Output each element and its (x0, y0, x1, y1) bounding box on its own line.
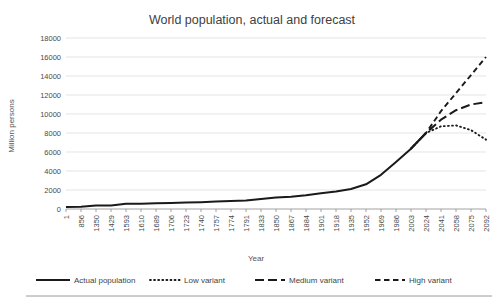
chart-card: World population, actual and forecast 02… (0, 0, 504, 301)
x-tick-1850: 1850 (272, 215, 281, 232)
x-tick-1918: 1918 (332, 215, 341, 232)
legend-label-actual-population[interactable]: Actual population (74, 276, 135, 285)
y-tick-18000: 18000 (40, 34, 61, 43)
y-tick-0: 0 (57, 205, 61, 214)
x-tick-1723: 1723 (182, 215, 191, 232)
y-tick-14000: 14000 (40, 72, 61, 81)
x-tick-1740: 1740 (197, 215, 206, 232)
x-tick-1593: 1593 (122, 215, 131, 232)
x-tick-1757: 1757 (212, 215, 221, 232)
x-tick-1: 1 (62, 215, 71, 219)
x-tick-1884: 1884 (302, 215, 311, 232)
y-tick-2000: 2000 (44, 186, 61, 195)
population-line-chart: World population, actual and forecast 02… (0, 0, 504, 301)
x-tick-2041: 2041 (437, 215, 446, 232)
x-axis-tick-labels: 1856135014291593161016891706172317401757… (62, 215, 491, 232)
chart-title: World population, actual and forecast (149, 13, 356, 27)
series-actual-population (66, 133, 426, 207)
x-tick-2075: 2075 (467, 215, 476, 232)
x-tick-1833: 1833 (257, 215, 266, 232)
x-tick-1986: 1986 (392, 215, 401, 232)
x-tick-1901: 1901 (317, 215, 326, 232)
gridlines (66, 38, 486, 212)
y-tick-8000: 8000 (44, 129, 61, 138)
x-tick-2003: 2003 (407, 215, 416, 232)
x-tick-1429: 1429 (107, 215, 116, 232)
y-tick-16000: 16000 (40, 53, 61, 62)
x-tick-1689: 1689 (152, 215, 161, 232)
x-tick-1969: 1969 (377, 215, 386, 232)
x-tick-1774: 1774 (227, 215, 236, 232)
y-tick-6000: 6000 (44, 148, 61, 157)
y-tick-10000: 10000 (40, 110, 61, 119)
x-tick-1610: 1610 (137, 215, 146, 232)
y-axis-tick-labels: 0200040006000800010000120001400016000180… (40, 34, 61, 214)
chart-legend: Actual populationLow variantMedium varia… (36, 276, 452, 285)
series-lines (66, 57, 486, 207)
y-axis-title: Million persons (7, 99, 16, 152)
legend-label-high-variant[interactable]: High variant (409, 276, 452, 285)
x-tick-2058: 2058 (452, 215, 461, 232)
x-tick-1867: 1867 (287, 215, 296, 232)
x-tick-2024: 2024 (422, 215, 431, 232)
x-tick-1706: 1706 (167, 215, 176, 232)
legend-label-low-variant[interactable]: Low variant (184, 276, 226, 285)
y-tick-12000: 12000 (40, 91, 61, 100)
legend-label-medium-variant[interactable]: Medium variant (289, 276, 344, 285)
y-tick-4000: 4000 (44, 167, 61, 176)
x-tick-1935: 1935 (347, 215, 356, 232)
x-tick-1350: 1350 (92, 215, 101, 232)
x-tick-1791: 1791 (242, 215, 251, 232)
x-tick-1952: 1952 (362, 215, 371, 232)
series-high-variant (411, 57, 486, 149)
x-tick-856: 856 (77, 215, 86, 228)
x-axis-title: Year (248, 254, 265, 263)
x-tick-2092: 2092 (482, 215, 491, 232)
